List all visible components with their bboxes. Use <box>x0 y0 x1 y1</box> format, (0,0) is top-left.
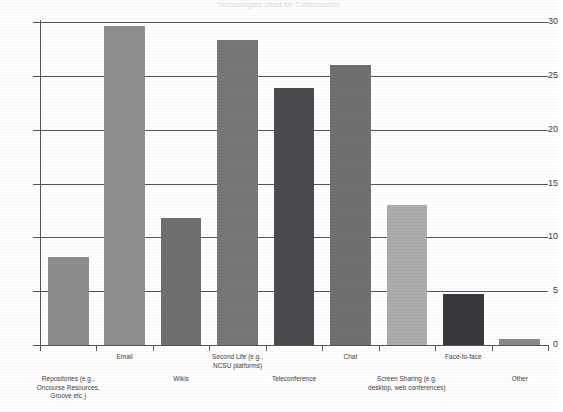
x-axis-tick-mark <box>379 345 380 351</box>
x-axis-tick-mark <box>548 345 549 351</box>
bar <box>274 88 315 345</box>
x-axis-tick-mark <box>322 345 323 351</box>
x-axis-label: Repositories (e.g., Oncourse Resources, … <box>15 375 122 401</box>
y-axis-tick-mark <box>33 184 40 185</box>
chart-title: Technologies Used for Collaboration <box>0 0 558 9</box>
x-axis-label: Email <box>71 353 178 362</box>
bar <box>387 205 428 345</box>
x-axis-label: Second Life (e.g., NCSU platforms) <box>184 353 291 370</box>
bar <box>104 26 145 345</box>
y-axis-tick-mark <box>33 22 40 23</box>
x-axis-label: Face-to-face <box>410 353 517 362</box>
x-axis-tick-mark <box>40 345 41 351</box>
plot-area <box>40 22 548 345</box>
x-axis-tick-mark <box>492 345 493 351</box>
y-axis-tick-mark <box>33 237 40 238</box>
x-axis-label: Other <box>466 375 563 384</box>
y-axis-tick-mark <box>33 76 40 77</box>
bar <box>217 40 258 345</box>
x-axis-line <box>39 345 549 346</box>
x-axis-label: Screen Sharing (e.g. desktop, web confer… <box>353 375 460 392</box>
x-axis-tick-mark <box>266 345 267 351</box>
x-axis-tick-mark <box>96 345 97 351</box>
x-axis-tick-mark <box>209 345 210 351</box>
bar <box>48 257 89 345</box>
y-axis-tick-mark <box>33 291 40 292</box>
y-axis-tick-mark <box>33 130 40 131</box>
y-axis-tick-mark <box>33 345 40 346</box>
x-axis-label: Wikis <box>127 375 234 384</box>
x-axis-tick-mark <box>435 345 436 351</box>
x-axis-label: Chat <box>297 353 404 362</box>
bar <box>161 218 202 345</box>
x-axis-label: Teleconference <box>240 375 347 384</box>
bar <box>443 294 484 345</box>
bar <box>499 339 540 345</box>
bar <box>330 65 371 345</box>
x-axis-tick-mark <box>153 345 154 351</box>
